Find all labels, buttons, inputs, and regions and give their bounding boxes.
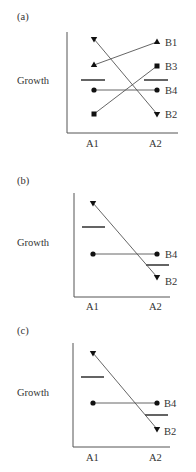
circle-marker — [91, 87, 96, 92]
series-label-b2: B2 — [165, 276, 177, 287]
x-tick-a1: A1 — [86, 138, 99, 149]
triangle-down-marker — [154, 112, 160, 118]
x-tick-a2: A2 — [149, 452, 162, 463]
triangle-down-marker — [154, 275, 160, 281]
panel-label: (a) — [17, 11, 29, 23]
axes — [74, 193, 170, 297]
circle-marker — [154, 400, 159, 405]
series-label-b3: B3 — [165, 61, 177, 72]
circle-marker — [90, 251, 95, 256]
series-label-b2: B2 — [165, 109, 177, 120]
panel-b: (b) Growth A1 A2 B4 B2 — [17, 175, 178, 312]
series-label-b1: B1 — [165, 37, 177, 48]
panel-c: (c) Growth A1 A2 B4 B2 — [17, 325, 177, 463]
y-axis-label: Growth — [17, 75, 50, 86]
interaction-diagrams: (a) Growth A1 A2 B1 B2 B3 B4 (b) Growth … — [0, 0, 196, 472]
series-label-b2: B2 — [164, 426, 176, 437]
circle-marker — [154, 251, 159, 256]
series-label-b4: B4 — [165, 249, 178, 260]
panel-a: (a) Growth A1 A2 B1 B2 B3 B4 — [17, 11, 178, 149]
panel-label: (c) — [17, 325, 29, 337]
square-marker — [155, 64, 160, 69]
y-axis-label: Growth — [17, 387, 50, 398]
series-b2-line — [93, 203, 157, 277]
panel-label: (b) — [17, 175, 30, 187]
series-label-b4: B4 — [165, 85, 178, 96]
x-tick-a2: A2 — [149, 138, 162, 149]
axes — [67, 32, 178, 133]
series-b1-line — [94, 42, 157, 65]
triangle-up-marker — [154, 39, 160, 45]
series-label-b4: B4 — [164, 398, 177, 409]
square-marker — [92, 112, 97, 117]
circle-marker — [154, 87, 159, 92]
y-axis-label: Growth — [17, 237, 50, 248]
axes — [73, 343, 170, 447]
triangle-down-marker — [154, 427, 160, 433]
x-tick-a2: A2 — [149, 301, 162, 312]
series-b2-line — [94, 39, 157, 114]
x-tick-a1: A1 — [86, 301, 99, 312]
x-tick-a1: A1 — [86, 452, 99, 463]
circle-marker — [90, 400, 95, 405]
series-b2-line — [93, 353, 157, 429]
